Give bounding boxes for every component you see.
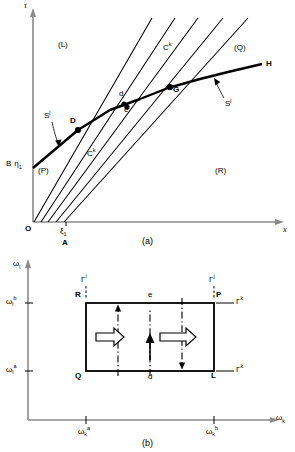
char-lower-label: Ck	[87, 148, 96, 158]
point-D-label: D	[70, 117, 76, 125]
panel-a: τ x O (L) (Q) (P) (R) D d e G H Sj Sj Ck…	[0, 0, 295, 250]
panel-b-axis-y-label: ωl	[13, 260, 20, 270]
shock-curve-Sj	[33, 64, 262, 168]
char-upper-label: Ck	[163, 42, 172, 52]
char-upper-sup: k	[169, 41, 172, 47]
b-eta-label: Bη1	[6, 160, 22, 170]
panel-b: ωl ωk ωlb ωla ωka ωkb R P Q L e d Γi Γj …	[0, 248, 295, 452]
leader-shock-right	[214, 78, 224, 98]
corner-P-label: P	[216, 291, 221, 299]
ytick-b-sup: b	[13, 295, 16, 301]
xtick-omega-k-a: ωka	[78, 426, 90, 438]
shock-left-sup: j	[49, 109, 50, 115]
ytick-a-sub: l	[12, 369, 13, 375]
panel-b-point-e-label: e	[148, 291, 152, 299]
caption-b: (b)	[0, 438, 295, 448]
panel-a-axes	[30, 8, 284, 225]
block-arrows	[96, 328, 196, 346]
corner-R-label: R	[75, 291, 81, 299]
corner-Q-label: Q	[75, 372, 81, 380]
panel-b-axes	[25, 259, 279, 424]
xtick-a-sup: a	[87, 425, 90, 431]
gamma-k-upper-sup: k	[240, 295, 243, 301]
gamma-j-sup: j	[213, 273, 214, 279]
boundary-leaders	[86, 286, 234, 371]
origin-label-O: O	[25, 225, 31, 233]
shock-left-label: Sj	[44, 110, 51, 120]
xtick-a-sub: k	[84, 431, 87, 437]
ytick-omega-l-a: ωla	[6, 364, 17, 376]
panel-a-canvas	[0, 0, 295, 250]
ytick-b-sub: l	[12, 301, 13, 307]
shock-right-sup: j	[230, 97, 231, 103]
panel-b-canvas	[0, 248, 295, 452]
xtick-omega-k-b: ωkb	[206, 426, 218, 438]
ytick-omega-l-b: ωlb	[6, 296, 17, 308]
b-eta-sub: 1	[19, 164, 22, 170]
ytick-a-sup: a	[13, 363, 16, 369]
point-e-label: e	[124, 106, 128, 114]
gamma-k-lower-sup: k	[240, 363, 243, 369]
region-Q-label: (Q)	[234, 44, 246, 52]
point-H-label: H	[266, 60, 272, 68]
region-R-label: (R)	[215, 167, 226, 175]
xtick-b-sub: k	[212, 431, 215, 437]
panel-b-axis-x-label: ωk	[276, 414, 285, 424]
point-G-label: G	[173, 86, 179, 94]
point-D-dot	[75, 127, 81, 133]
figure-root: τ x O (L) (Q) (P) (R) D d e G H Sj Sj Ck…	[0, 0, 295, 452]
axis-label-x: x	[283, 226, 287, 234]
panel-b-point-d-label: d	[148, 373, 152, 381]
region-P-label: (P)	[38, 167, 49, 175]
point-d-label: d	[119, 90, 123, 98]
gamma-i-sup: i	[85, 273, 86, 279]
block-arrow-right	[160, 328, 196, 346]
corner-L-label: L	[211, 372, 216, 380]
leader-shock-left	[52, 122, 61, 147]
caption-a: (a)	[0, 236, 295, 246]
xtick-b-sup: b	[215, 425, 218, 431]
b-eta-B: B	[6, 159, 11, 168]
panel-b-axis-y-sub: l	[19, 264, 20, 270]
shock-right-label: Sj	[225, 98, 232, 108]
block-arrow-left	[96, 328, 124, 346]
gamma-k-lower-label: Γk	[236, 364, 243, 374]
region-L-label: (L)	[58, 41, 68, 49]
gamma-j-label: Γj	[209, 274, 215, 284]
char-lower-sup: k	[93, 147, 96, 153]
axis-label-tau: τ	[24, 2, 27, 10]
gamma-i-label: Γi	[81, 274, 87, 284]
panel-b-axis-x-sub: k	[282, 418, 285, 424]
gamma-k-upper-label: Γk	[236, 296, 243, 306]
